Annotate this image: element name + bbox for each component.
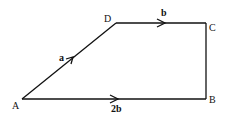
vertex-label-d: D: [104, 13, 111, 24]
vector-label-b: b: [161, 7, 167, 18]
trapezium-diagram: A B C D a b 2b: [0, 0, 226, 118]
vertex-label-a: A: [12, 100, 20, 111]
vector-label-2b: 2b: [111, 103, 122, 114]
vector-label-a: a: [59, 52, 64, 63]
vertex-label-b: B: [209, 94, 216, 105]
vertex-label-c: C: [209, 22, 216, 33]
edge-ad: [22, 23, 116, 99]
